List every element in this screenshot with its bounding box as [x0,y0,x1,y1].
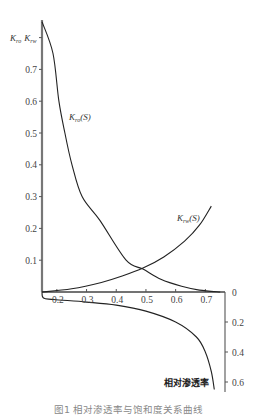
right-tick-label: 0.2 [232,318,244,328]
figure-caption: 图1 相对渗透率与饱和度关系曲线 [0,402,257,415]
right-tick-label: 0 [232,288,237,298]
x-tick-label: 0.3 [82,295,94,305]
right-axis-label: 相对渗透率 [164,377,209,388]
y-tick-label: 0.4 [25,160,37,170]
axes [39,20,228,392]
x-tick-label: 0.6 [171,295,183,305]
y-tick-label: 0.5 [25,129,37,139]
kro-curve-label: Kro(S) [68,112,91,123]
right-tick-label: 0.6 [232,378,244,388]
y-tick-label: 0.6 [25,97,37,107]
y-tick-label: 0.1 [25,256,37,266]
lower-permeability-curve [42,292,214,390]
relative-permeability-chart: 0.10.20.30.40.50.60.70.20.30.40.50.60.70… [0,0,257,415]
x-tick-label: 0.4 [111,295,123,305]
y-tick-label: 0.7 [25,65,37,75]
y-tick-label: 0.2 [25,224,37,234]
x-tick-label: 0.5 [141,295,153,305]
y-axis-label: KroKrw [9,33,37,44]
x-tick-label: 0.2 [52,295,64,305]
x-tick-label: 0.7 [200,295,212,305]
kro-curve [42,22,220,292]
y-tick-label: 0.3 [25,192,37,202]
krw-curve-label: Krw(S) [176,213,200,224]
curves [42,22,220,390]
right-tick-label: 0.4 [232,348,244,358]
